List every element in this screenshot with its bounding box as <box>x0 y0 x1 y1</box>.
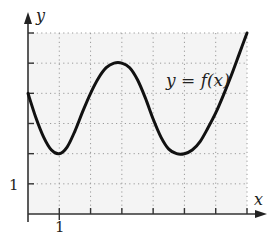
plot-background <box>28 33 247 214</box>
y-axis-arrow-icon <box>24 12 32 24</box>
y-tick-label: 1 <box>9 176 19 194</box>
x-axis-arrow-icon <box>255 210 267 218</box>
x-tick-label: 1 <box>55 218 65 235</box>
function-graph: y x 1 1 y = f(x) <box>0 0 272 235</box>
curve-label: y = f(x) <box>165 70 230 90</box>
y-axis-label: y <box>35 6 46 25</box>
x-axis-label: x <box>254 190 263 209</box>
